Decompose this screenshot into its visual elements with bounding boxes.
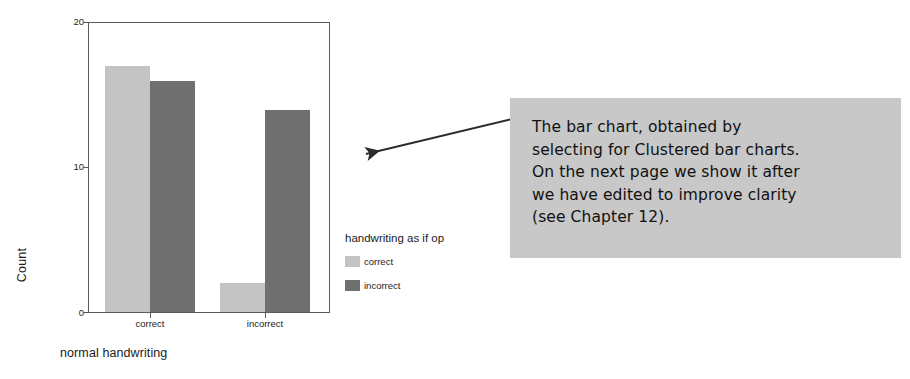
x-tick-label-incorrect: incorrect bbox=[225, 318, 305, 329]
x-axis-title: normal handwriting bbox=[60, 346, 167, 360]
bar-group-incorrect bbox=[220, 23, 312, 312]
legend-item-incorrect: incorrect bbox=[345, 280, 485, 291]
legend-label-incorrect: incorrect bbox=[364, 280, 400, 291]
legend-label-correct: correct bbox=[364, 256, 393, 267]
legend-item-correct: correct bbox=[345, 256, 485, 267]
bar-incorrect-incorrect bbox=[265, 110, 310, 312]
bar-correct-incorrect bbox=[150, 81, 195, 312]
bar-correct-correct bbox=[105, 66, 150, 312]
y-tick-label-20: 20 bbox=[50, 17, 84, 27]
legend-swatch-incorrect-icon bbox=[345, 280, 360, 291]
legend-swatch-correct-icon bbox=[345, 256, 360, 267]
plot-area bbox=[88, 22, 330, 313]
bar-incorrect-correct bbox=[220, 283, 265, 312]
legend-title: handwriting as if op bbox=[345, 232, 485, 244]
y-tick-label-10: 10 bbox=[50, 162, 84, 172]
y-tick-label-0: 0 bbox=[50, 308, 84, 318]
bar-group-correct bbox=[105, 23, 197, 312]
annotation-callout-text: The bar chart, obtained by selecting for… bbox=[532, 116, 881, 229]
x-tick-label-correct: correct bbox=[110, 318, 190, 329]
bar-chart-figure: 20 10 0 Count correct incorrect normal h… bbox=[0, 0, 500, 379]
y-axis-tick-labels: 20 10 0 bbox=[44, 0, 84, 379]
callout-arrow-icon bbox=[352, 108, 522, 168]
y-axis-title: Count bbox=[15, 235, 29, 295]
annotation-callout-box: The bar chart, obtained by selecting for… bbox=[510, 98, 901, 258]
chart-legend: handwriting as if op correct incorrect bbox=[345, 232, 485, 304]
